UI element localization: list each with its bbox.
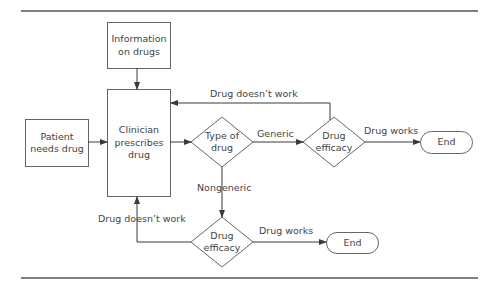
patient-label: Patient needs drug	[25, 119, 89, 167]
type-of-drug-label: Type of drug	[191, 117, 253, 167]
flowchart-canvas: Information on drugs Clinician prescribe…	[0, 0, 495, 288]
info-label-line2: on drugs	[118, 46, 160, 59]
efficacy-nongeneric-line1: Drug	[210, 230, 233, 243]
type-of-drug-line2: drug	[211, 142, 233, 155]
efficacy-generic-label: Drug efficacy	[303, 117, 365, 167]
clinician-label: Clinician prescribes drug	[107, 89, 171, 197]
efficacy-nongeneric-label: Drug efficacy	[191, 217, 253, 267]
info-label-line1: Information	[112, 33, 167, 46]
edge-label-doesnt-work-top: Drug doesn’t work	[210, 88, 298, 100]
patient-label-line1: Patient	[40, 131, 73, 144]
clinician-label-line3: drug	[128, 149, 150, 162]
edge-label-nongeneric: Nongeneric	[197, 182, 251, 194]
edge-label-doesnt-work-bottom: Drug doesn’t work	[98, 213, 186, 225]
edge-label-works-bottom: Drug works	[259, 225, 313, 237]
efficacy-generic-line2: efficacy	[316, 142, 353, 155]
end-generic-label: End	[420, 131, 473, 154]
clinician-label-line1: Clinician	[119, 124, 159, 137]
edge-label-works-top: Drug works	[364, 125, 418, 137]
info-label: Information on drugs	[107, 22, 171, 69]
efficacy-nongeneric-line2: efficacy	[204, 242, 241, 255]
end-nongeneric-label: End	[326, 232, 379, 254]
patient-label-line2: needs drug	[30, 143, 84, 156]
type-of-drug-line1: Type of	[205, 130, 239, 143]
clinician-label-line2: prescribes	[114, 137, 163, 150]
efficacy-generic-line1: Drug	[322, 130, 345, 143]
edge-label-generic: Generic	[257, 128, 294, 140]
